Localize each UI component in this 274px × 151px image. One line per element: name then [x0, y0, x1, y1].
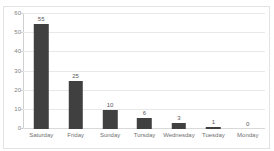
bar-value-label: 3	[177, 115, 180, 122]
bar-slot: 1	[196, 13, 230, 129]
y-tick-label: 40	[5, 48, 21, 54]
y-tick-label: 10	[5, 106, 21, 112]
bar[interactable]	[206, 127, 220, 129]
chart-title	[4, 0, 271, 7]
y-tick-label: 50	[5, 29, 21, 35]
bar-value-label: 10	[107, 102, 114, 109]
y-axis: 0102030405060	[4, 13, 21, 129]
x-tick-label: Monday	[231, 131, 265, 139]
x-tick-label: Friday	[58, 131, 92, 139]
chart-frame: 0102030405060 5525106310 SaturdayFridayS…	[3, 6, 270, 149]
bar-value-label: 1	[212, 119, 215, 126]
y-tick-label: 0	[5, 125, 21, 131]
bar-value-label: 6	[143, 110, 146, 117]
bar-value-label: 0	[246, 121, 249, 128]
x-tick-label: Tuesday	[196, 131, 230, 139]
x-axis: SaturdayFridaySundayTursdayWednesdayTues…	[24, 131, 265, 145]
bar[interactable]	[172, 123, 186, 129]
bar-slot: 10	[93, 13, 127, 129]
bar-slot: 0	[231, 13, 265, 129]
bar[interactable]	[34, 24, 48, 129]
x-tick-label: Sunday	[93, 131, 127, 139]
bar[interactable]	[68, 81, 82, 129]
bar-value-label: 55	[38, 16, 45, 23]
bar-slot: 3	[162, 13, 196, 129]
y-tick-label: 20	[5, 87, 21, 93]
x-tick-label: Saturday	[24, 131, 58, 139]
bar-slot: 25	[58, 13, 92, 129]
y-tick-label: 60	[5, 10, 21, 16]
y-tick-label: 30	[5, 68, 21, 74]
bar-value-label: 25	[72, 73, 79, 80]
bar-slot: 6	[127, 13, 161, 129]
bar-chart: 0102030405060 5525106310 SaturdayFridayS…	[0, 0, 274, 151]
x-tick-label: Wednesday	[162, 131, 196, 139]
bar[interactable]	[137, 118, 151, 130]
bar-slot: 55	[24, 13, 58, 129]
x-tick-label: Tursday	[127, 131, 161, 139]
bar-series: 5525106310	[24, 13, 265, 129]
bar[interactable]	[103, 110, 117, 129]
